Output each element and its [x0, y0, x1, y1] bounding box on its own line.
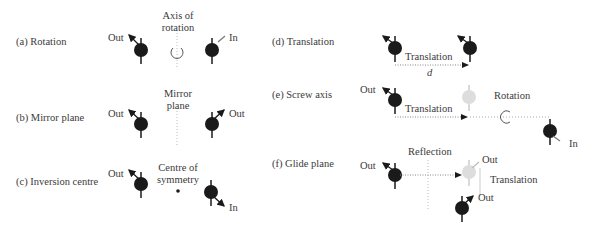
panel-b-title: (b) Mirror plane — [16, 112, 84, 124]
panel-f-glide — [383, 160, 480, 222]
out-label: Out — [360, 84, 376, 96]
distance-label: d — [427, 67, 432, 79]
out-label: Out — [108, 32, 124, 44]
centre-of-symmetry-label: Centre of symmetry — [150, 162, 206, 186]
in-label: In — [569, 138, 578, 150]
final-out-label: Out — [478, 192, 494, 204]
reflection-label: Reflection — [408, 146, 452, 158]
ghost-molecule — [462, 85, 476, 111]
out-label-right: Out — [229, 108, 245, 120]
in-label: In — [229, 32, 238, 44]
rotation-icon — [171, 48, 183, 58]
panel-c-title: (c) Inversion centre — [16, 176, 98, 188]
translation-label: Translation — [405, 103, 452, 115]
panel-a-rotation — [129, 30, 225, 68]
panel-d-title: (d) Translation — [272, 36, 334, 48]
panel-f-title: (f) Glide plane — [272, 158, 334, 170]
translation-label: Translation — [490, 174, 537, 186]
inversion-centre-dot — [176, 189, 180, 193]
molecule-in — [205, 38, 219, 64]
panel-b-mirror — [129, 108, 224, 146]
ghost-molecule — [462, 160, 476, 186]
in-arrow — [218, 36, 225, 42]
in-label: In — [229, 202, 238, 214]
ghost-out-label: Out — [482, 154, 498, 166]
out-label-left: Out — [108, 108, 124, 120]
mirror-plane-label: Mirror plane — [155, 88, 201, 112]
out-label: Out — [108, 168, 124, 180]
molecule-in — [204, 180, 218, 206]
translation-label: Translation — [405, 51, 452, 63]
symmetry-diagram — [0, 0, 597, 231]
panel-e-title: (e) Screw axis — [272, 89, 332, 101]
axis-label: Axis of rotation — [155, 10, 201, 34]
out-arrow — [129, 35, 139, 45]
panel-a-title: (a) Rotation — [16, 36, 66, 48]
rotation-label: Rotation — [494, 90, 530, 102]
panel-e-screw — [383, 85, 560, 145]
out-label: Out — [360, 160, 376, 172]
rotation-icon — [501, 111, 510, 123]
